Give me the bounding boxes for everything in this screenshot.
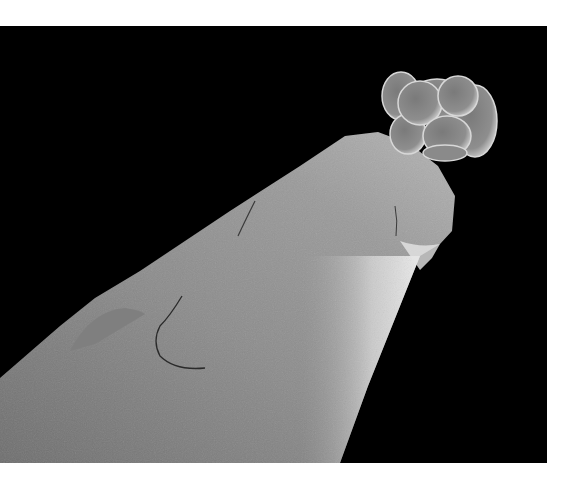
sem-micrograph bbox=[0, 26, 547, 463]
needle-tip bbox=[0, 132, 455, 463]
cell-cluster bbox=[382, 72, 497, 161]
